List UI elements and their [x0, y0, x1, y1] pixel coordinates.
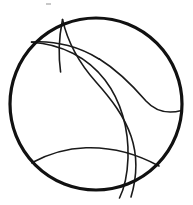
figure-container: Hand-drawn style line figure: a thick bl… — [0, 0, 193, 205]
top-speck-mark — [46, 3, 51, 5]
stray-marks-group — [46, 3, 51, 5]
canvas-background — [0, 0, 193, 205]
circle-arcs-diagram — [0, 0, 193, 205]
